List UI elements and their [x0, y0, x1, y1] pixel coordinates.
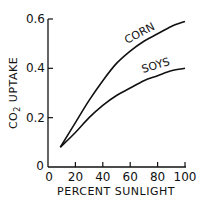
x-tick-label: 40: [95, 170, 110, 184]
series-lines: [60, 21, 185, 147]
x-tick-label: 80: [150, 170, 165, 184]
y-ticks: 00.20.40.6: [26, 12, 53, 173]
x-tick-label: 60: [123, 170, 138, 184]
series-label-corn: CORN: [122, 20, 157, 47]
x-tick-label: 20: [68, 170, 83, 184]
chart: 00.20.40.6 020406080100 PERCENT SUNLIGHT…: [0, 0, 201, 207]
x-ticks: 020406080100: [45, 162, 196, 184]
x-axis-title: PERCENT SUNLIGHT: [57, 185, 175, 198]
y-axis-title: CO2 UPTAKE: [7, 57, 22, 129]
y-tick-label: 0.4: [26, 61, 45, 75]
series-line-soys: [60, 68, 185, 147]
y-tick-label: 0: [36, 159, 44, 173]
y-tick-label: 0.2: [26, 111, 45, 125]
x-tick-label: 0: [45, 170, 53, 184]
y-tick-label: 0.6: [26, 12, 45, 26]
x-tick-label: 100: [174, 170, 197, 184]
